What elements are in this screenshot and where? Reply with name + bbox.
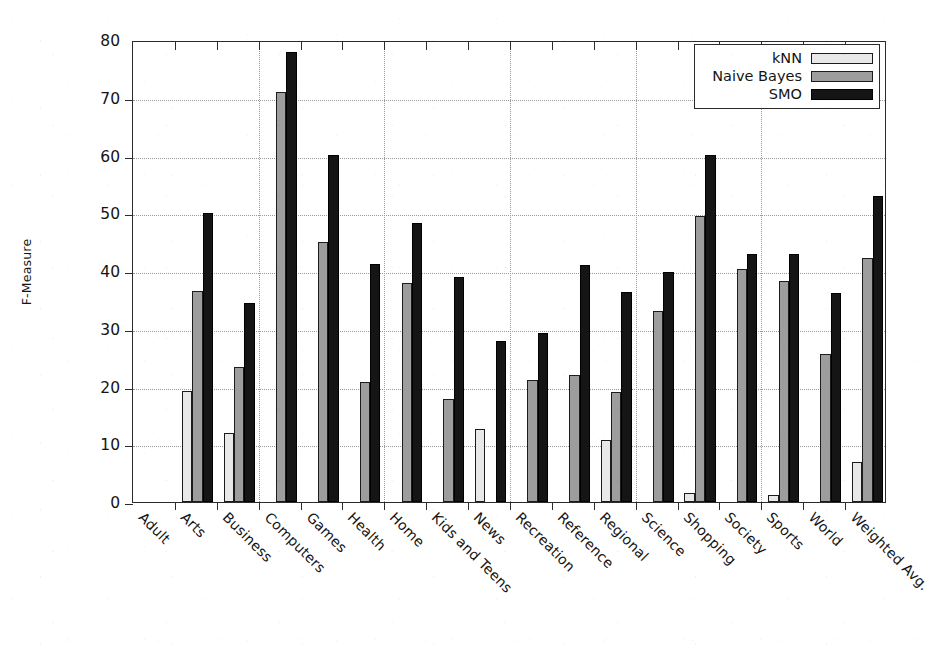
bar [234, 367, 244, 502]
x-axis-tick-top [510, 42, 511, 50]
legend-item-label: kNN [772, 50, 802, 66]
x-axis-tick [845, 502, 846, 510]
x-axis-tick [719, 502, 720, 510]
bar [852, 462, 862, 502]
bar [538, 333, 548, 502]
legend-item-label: SMO [769, 86, 802, 102]
x-axis-tick [552, 502, 553, 510]
y-axis-title: F-Measure [19, 239, 34, 306]
x-axis-tick-top [259, 42, 260, 50]
legend-color-swatch [811, 89, 873, 100]
x-axis-tick [175, 502, 176, 510]
bar [653, 311, 663, 502]
bar [663, 272, 673, 502]
y-axis-tick [125, 215, 133, 216]
x-axis-tick [342, 502, 343, 510]
bar [747, 254, 757, 502]
gridline-vertical [761, 42, 762, 502]
y-axis-tick [125, 158, 133, 159]
bar [475, 429, 485, 502]
x-axis-tick-top [217, 42, 218, 50]
x-axis-tick-top [636, 42, 637, 50]
gridline-vertical [636, 42, 637, 502]
bar [203, 213, 213, 502]
gridline-horizontal [133, 215, 885, 216]
bar [820, 354, 830, 502]
bar [768, 495, 778, 502]
x-axis-tick [803, 502, 804, 510]
bar [737, 269, 747, 502]
bar [527, 380, 537, 502]
bar [328, 155, 338, 502]
bar [318, 242, 328, 502]
legend-item: SMO [701, 85, 873, 103]
y-axis-tick-label: 10 [100, 439, 120, 455]
y-axis-tick [125, 389, 133, 390]
x-axis-tick [259, 502, 260, 510]
x-axis-tick [468, 502, 469, 510]
x-axis-tick [510, 502, 511, 510]
x-axis-tick-top [301, 42, 302, 50]
y-axis-tick [125, 100, 133, 101]
x-axis-tick-top [175, 42, 176, 50]
bar [789, 254, 799, 502]
y-axis-tick-label: 0 [110, 496, 120, 512]
bar [862, 258, 872, 502]
x-axis-tick [761, 502, 762, 510]
bar [601, 440, 611, 502]
bar [496, 341, 506, 502]
bar [360, 382, 370, 502]
bar [621, 292, 631, 502]
x-axis-tick [678, 502, 679, 510]
y-axis-tick [125, 331, 133, 332]
bar [182, 391, 192, 502]
x-axis-tick [594, 502, 595, 510]
x-axis-tick-top [342, 42, 343, 50]
x-axis-tick-top [678, 42, 679, 50]
x-axis-tick-top [384, 42, 385, 50]
legend-color-swatch [811, 71, 873, 82]
y-axis-tick-label: 30 [100, 323, 120, 339]
x-axis-tick-label: News [471, 509, 510, 548]
gridline-horizontal [133, 158, 885, 159]
gridline-horizontal [133, 273, 885, 274]
x-axis-tick-top [468, 42, 469, 50]
bar [705, 155, 715, 502]
y-axis-tick [125, 273, 133, 274]
bar [224, 433, 234, 502]
legend-item-label: Naive Bayes [712, 68, 802, 84]
bar [443, 399, 453, 502]
legend-item: kNN [701, 49, 873, 67]
gridline-vertical [510, 42, 511, 502]
bar [454, 277, 464, 502]
y-axis-tick-label: 50 [100, 208, 120, 224]
bar [684, 493, 694, 502]
bar [580, 265, 590, 502]
x-axis-tick-label: Arts [178, 509, 210, 541]
x-axis-tick-label: World [806, 509, 846, 549]
x-axis-tick [426, 502, 427, 510]
x-axis-tick-label: Weighted Avg. [848, 509, 931, 594]
x-axis-tick-top [594, 42, 595, 50]
gridline-vertical [259, 42, 260, 502]
y-axis-tick-label: 70 [100, 92, 120, 108]
bar [412, 223, 422, 502]
legend-color-swatch [811, 53, 873, 64]
bar [402, 283, 412, 502]
bar [831, 293, 841, 502]
legend: kNNNaive BayesSMO [694, 44, 880, 109]
x-axis-tick [636, 502, 637, 510]
y-axis-tick-label: 60 [100, 150, 120, 166]
bar [569, 375, 579, 502]
bar [244, 303, 254, 502]
bar [695, 216, 705, 502]
x-axis-tick-top [552, 42, 553, 50]
bar [276, 92, 286, 502]
y-axis-tick-label: 20 [100, 381, 120, 397]
y-axis-tick-label: 40 [100, 265, 120, 281]
x-axis-tick-label: Sports [764, 509, 808, 553]
bar [873, 196, 883, 502]
bar [779, 281, 789, 502]
x-axis-tick-label: Health [345, 509, 390, 554]
x-axis-tick-label: Adult [136, 509, 174, 547]
